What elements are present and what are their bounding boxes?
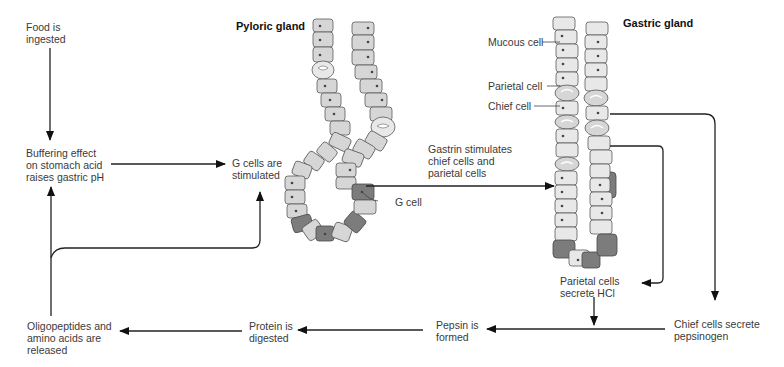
pyloric-gland-illustration: [285, 19, 395, 243]
arrow-oligopeptides-to-gcells: [51, 192, 260, 258]
step-pepsin-formed: Pepsin is formed: [436, 319, 479, 343]
diagram-canvas: [0, 0, 784, 367]
step-protein-digested: Protein is digested: [249, 320, 293, 344]
gastric-gland-title: Gastric gland: [623, 17, 693, 29]
parietal-cell-label: Parietal cell: [488, 80, 542, 92]
step-chief-secrete: Chief cells secrete pepsinogen: [674, 318, 760, 342]
g-cell-label: G cell: [395, 196, 422, 208]
step-buffering: Buffering effect on stomach acid raises …: [26, 147, 104, 183]
chief-cell-label: Chief cell: [488, 100, 531, 112]
step-food-ingested: Food is ingested: [26, 21, 66, 45]
arrow-gastric-to-parietal: [610, 146, 663, 283]
step-parietal-secrete: Parietal cells secrete HCl: [560, 275, 620, 299]
pyloric-gland-title: Pyloric gland: [236, 20, 305, 32]
mucous-cell-label: Mucous cell: [488, 36, 543, 48]
step-oligopeptides: Oligopeptides and amino acids are releas…: [27, 320, 112, 356]
gastric-right-wall: [584, 22, 617, 256]
gastric-gland-illustration: [553, 17, 617, 268]
step-g-cells-stimulated: G cells are stimulated: [232, 157, 282, 181]
step-gastrin: Gastrin stimulates chief cells and parie…: [428, 143, 512, 179]
